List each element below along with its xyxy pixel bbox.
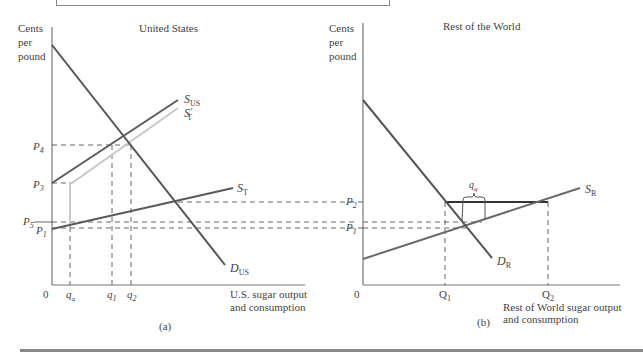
panel-a-y-label-2: per — [18, 36, 32, 48]
panel-b-origin: 0 — [354, 288, 360, 300]
label-q2-a: q2 — [127, 288, 137, 303]
panel-b-title: Rest of the World — [443, 20, 521, 32]
curve-s-us — [52, 100, 178, 183]
panel-b-y-label-2: per — [329, 36, 343, 48]
panel-b-x-label-2: and consumption — [503, 313, 579, 325]
label-q1-a: q1 — [107, 288, 117, 303]
panel-a-title: United States — [139, 22, 198, 34]
label-p3: P3 — [32, 178, 44, 193]
label-d-us: DUS — [229, 261, 249, 277]
label-p1-a: P1 — [35, 224, 47, 239]
label-p5: P5 — [22, 215, 34, 230]
panel-b: Cents per pound Rest of the World qq P2 … — [329, 20, 622, 329]
label-p1-b: P1 — [345, 221, 357, 236]
label-qq-b: qq — [469, 179, 478, 193]
bottom-rule — [20, 349, 643, 352]
panel-a-caption: (a) — [159, 320, 172, 333]
panel-b-x-label-1: Rest of World sugar output — [503, 301, 622, 313]
panel-a-x-label-1: U.S. sugar output — [230, 288, 307, 300]
panel-a-y-label-3: pound — [18, 50, 46, 62]
curve-s-r — [363, 188, 580, 259]
panel-a-y-label-1: Cents — [18, 22, 43, 34]
curve-s-t-prime — [70, 108, 178, 227]
panel-a: Cents per pound United States P4 P3 — [18, 22, 358, 333]
sugar-quota-diagram: Cents per pound United States P4 P3 — [0, 0, 643, 356]
label-s-r: SR — [585, 182, 597, 198]
panel-b-caption: (b) — [477, 316, 490, 329]
curve-s-t — [52, 188, 233, 229]
label-p4: P4 — [32, 140, 44, 155]
panel-b-y-label-3: pound — [329, 50, 357, 62]
label-qq-a: qq — [66, 288, 76, 303]
label-q1-b: Q1 — [439, 288, 451, 303]
panel-a-origin: 0 — [43, 288, 49, 300]
panel-a-guides — [52, 145, 358, 285]
curve-d-us — [52, 45, 225, 265]
label-p2-b: P2 — [345, 195, 357, 210]
panel-a-x-label-2: and consumption — [230, 301, 306, 313]
label-s-t: ST — [237, 181, 248, 197]
label-s-t-prime: S′T — [184, 106, 193, 122]
label-d-r: DR — [496, 254, 512, 270]
quota-bracket — [462, 193, 485, 222]
panel-b-y-label-1: Cents — [329, 22, 354, 34]
